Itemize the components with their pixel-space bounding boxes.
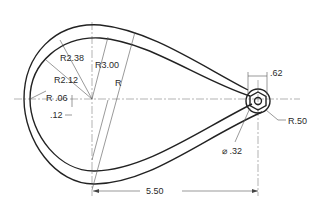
label-r06: R .06	[46, 93, 68, 103]
label-r: R	[115, 78, 122, 88]
label-r300: R3.00	[95, 60, 119, 70]
arrow-left-icon	[93, 189, 99, 193]
label-r50: R.50	[288, 116, 307, 126]
label-550: 5.50	[146, 186, 164, 196]
label-hole: ⌀ .32	[222, 146, 242, 156]
label-62: .62	[270, 68, 283, 78]
leader-r50-a	[266, 110, 278, 120]
label-r238: R2.38	[60, 53, 84, 63]
leader-aux	[92, 100, 108, 160]
leader-r06	[30, 91, 46, 99]
leader-r	[92, 32, 135, 190]
label-offset: .12	[50, 110, 63, 120]
arrow-right-icon	[252, 189, 258, 193]
label-r212: R2.12	[54, 75, 78, 85]
drawing-canvas: R2.38 R2.12 R3.00 R R .06 .12 .62 R.50 ⌀…	[0, 0, 331, 214]
leader-r238	[60, 40, 92, 99]
